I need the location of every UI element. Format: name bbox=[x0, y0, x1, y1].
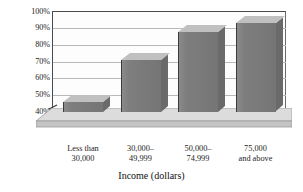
bar-front-face bbox=[121, 60, 161, 112]
bar-front-face bbox=[63, 102, 103, 112]
bar-side-face bbox=[276, 17, 283, 111]
category-label-line: 75,000 bbox=[222, 144, 290, 154]
bar-1 bbox=[63, 102, 103, 112]
bar-front-face bbox=[236, 23, 276, 111]
bar-top-face bbox=[121, 53, 170, 60]
bar-4 bbox=[236, 23, 276, 111]
bar-side-face bbox=[161, 54, 168, 112]
bar-2 bbox=[121, 60, 161, 112]
x-axis-title: Income (dollars) bbox=[0, 170, 303, 181]
category-label-line: and above bbox=[222, 154, 290, 164]
category-label-4: 75,000and above bbox=[222, 144, 290, 165]
income-bar-chart: 100%90%80%70%60%50%40% Less than30,00030… bbox=[0, 0, 303, 192]
y-axis-tick-label: 100% bbox=[4, 8, 50, 16]
y-axis-tick-label: 90% bbox=[4, 24, 50, 32]
y-axis-tick-label: 80% bbox=[4, 41, 50, 49]
y-axis-tick-label: 60% bbox=[4, 74, 50, 82]
bar-front-face bbox=[178, 32, 218, 112]
bar-3 bbox=[178, 32, 218, 112]
bar-top-face bbox=[63, 95, 112, 102]
bar-top-face bbox=[178, 25, 227, 32]
y-axis-tick-label: 50% bbox=[4, 91, 50, 99]
y-axis-tick-label: 70% bbox=[4, 58, 50, 66]
bar-side-face bbox=[218, 25, 225, 111]
